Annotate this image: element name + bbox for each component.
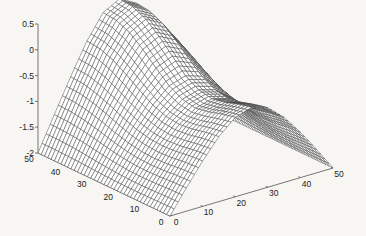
z-tick-label: -1.5: [19, 122, 34, 132]
x-tick: [233, 196, 235, 197]
y-tick-label: 10: [130, 204, 140, 214]
x-tick-label: 50: [334, 169, 344, 179]
x-tick-label: 30: [269, 188, 279, 198]
y-tick-label: 0: [159, 217, 164, 227]
y-tick-label: 20: [103, 192, 113, 202]
surface-plot: -2-1.5-1-0.500.50102030405001020304050: [0, 0, 366, 236]
x-tick: [266, 186, 268, 187]
x-tick-label: 20: [236, 198, 246, 208]
x-tick-label: 40: [302, 179, 312, 189]
z-tick-label: -1: [26, 96, 34, 106]
x-tick: [298, 177, 300, 178]
y-tick-label: 30: [77, 179, 87, 189]
z-tick-label: -0.5: [19, 71, 34, 81]
y-tick-label: 40: [51, 167, 61, 177]
x-tick-label: 10: [204, 207, 214, 217]
z-tick-label: 0: [29, 45, 34, 55]
y-tick-label: 50: [24, 154, 34, 164]
x-tick-label: 0: [174, 217, 179, 227]
x-axis-line: [170, 168, 333, 216]
z-tick-label: 0.5: [22, 19, 34, 29]
x-tick: [201, 205, 203, 206]
